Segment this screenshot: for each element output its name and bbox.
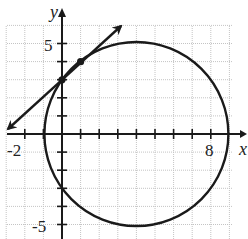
graph: y x 5 -5 -2 8 <box>0 0 248 239</box>
grid <box>6 25 232 239</box>
point-0-3 <box>58 76 65 83</box>
x-axis-label: x <box>238 139 247 159</box>
y-axis-arrow-icon <box>58 8 66 17</box>
secant-line-upper <box>62 26 121 80</box>
point-1-4 <box>77 58 84 65</box>
y-tick-label-neg5: -5 <box>32 217 46 236</box>
y-axis <box>58 8 66 239</box>
y-axis-label: y <box>48 2 58 22</box>
x-tick-label-neg2: -2 <box>7 141 21 160</box>
x-tick-label-8: 8 <box>205 141 214 160</box>
x-axis-arrow-icon <box>240 130 247 138</box>
secant-line <box>8 80 62 129</box>
y-tick-label-5: 5 <box>44 36 53 55</box>
